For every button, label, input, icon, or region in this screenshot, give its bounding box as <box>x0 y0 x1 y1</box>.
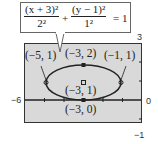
center-label: (−3, 1) <box>65 84 96 96</box>
left-vertex-leader <box>41 66 46 80</box>
xmax-label: 0 <box>146 96 151 106</box>
right-vertex-label: (−1, 1) <box>104 49 135 61</box>
graph-figure: (x + 3)² 2² + (y − 1)² 1² = 1 3 0 −1 −6 … <box>0 0 158 144</box>
term2-fraction: (y − 1)² 1² <box>71 4 106 29</box>
xmin-label: −6 <box>11 95 21 105</box>
equals-one: = 1 <box>113 12 127 24</box>
ymin-label: −1 <box>134 130 144 140</box>
top-covertex-point <box>82 63 86 67</box>
term1-fraction: (x + 3)² 2² <box>24 4 59 29</box>
term2-numerator: (y − 1)² <box>71 4 106 17</box>
right-vertex-leader <box>121 66 126 80</box>
callout-pointer <box>56 33 64 52</box>
plus-sign: + <box>62 12 68 24</box>
term1-numerator: (x + 3)² <box>24 4 59 17</box>
term2-denominator: 1² <box>71 17 106 29</box>
bottom-covertex-label: (−3, 0) <box>65 103 96 115</box>
left-vertex-label: (−5, 1) <box>25 49 56 61</box>
y-axis-ticks <box>139 62 142 119</box>
term1-denominator: 2² <box>24 17 59 29</box>
top-covertex-label: (−3, 2) <box>65 47 96 59</box>
ymax-label: 3 <box>137 32 142 42</box>
bottom-covertex-point <box>82 98 86 102</box>
